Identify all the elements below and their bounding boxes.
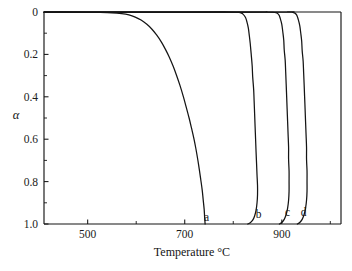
y-tick-label: 0.4: [24, 91, 39, 103]
y-tick-label: 0.2: [24, 48, 39, 60]
curve-label-a: a: [204, 211, 209, 223]
y-tick-label: 0.8: [24, 176, 39, 188]
curve-label-d: d: [301, 206, 307, 218]
x-tick-label: 500: [79, 228, 97, 240]
y-tick-label: 0.6: [24, 133, 39, 145]
curve-label-c: c: [285, 206, 290, 218]
x-axis-title: Temperature °C: [154, 245, 230, 259]
alpha-temperature-chart: 500700900 00.20.40.60.81.0 abcd Temperat…: [0, 0, 352, 271]
x-tick-label: 900: [273, 228, 291, 240]
y-axis-title: α: [13, 108, 20, 122]
figure-container: 500700900 00.20.40.60.81.0 abcd Temperat…: [0, 0, 352, 271]
y-tick-label: 0: [32, 6, 38, 18]
y-tick-label: 1.0: [24, 218, 39, 230]
curve-label-b: b: [256, 208, 262, 220]
x-tick-label: 700: [176, 228, 194, 240]
